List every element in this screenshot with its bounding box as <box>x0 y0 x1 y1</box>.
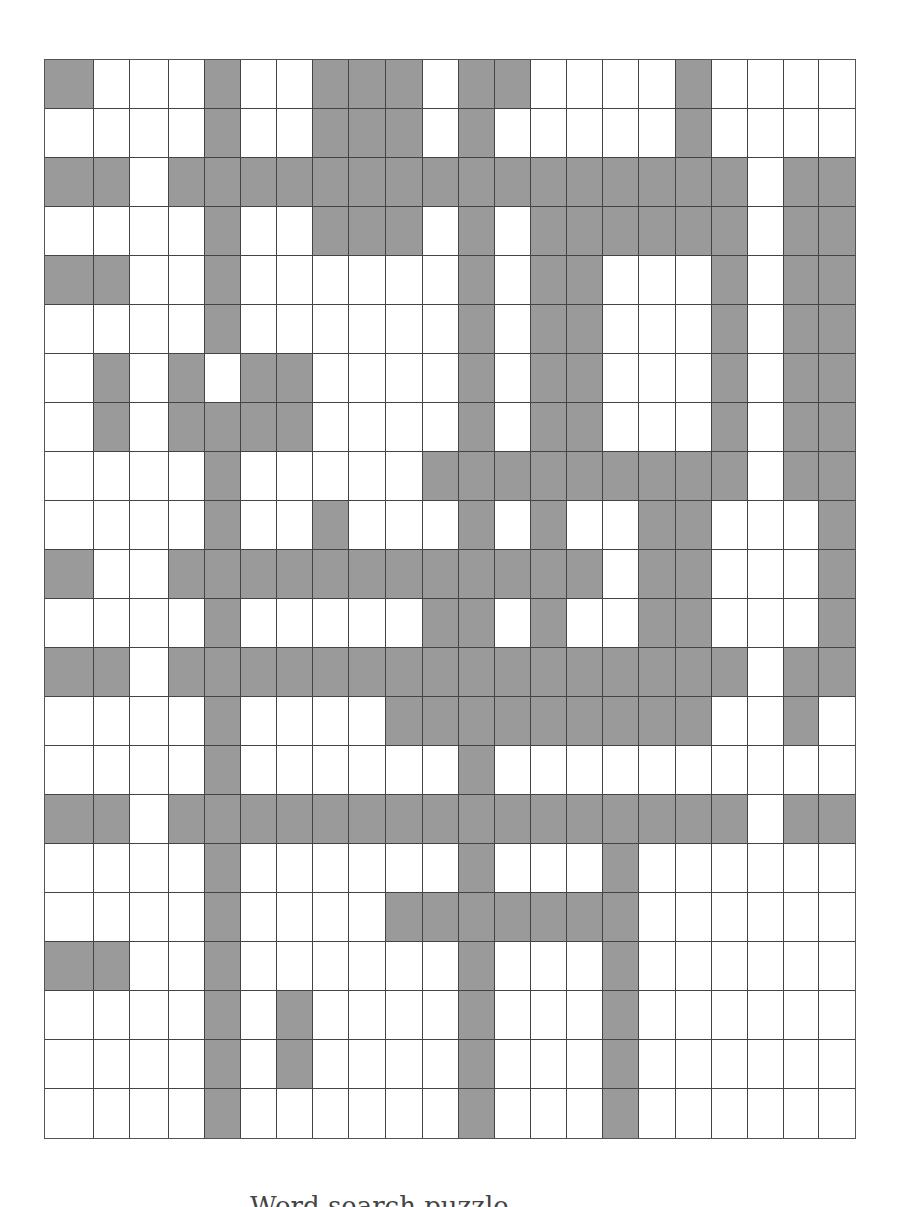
grid-cell-shaded <box>459 697 495 746</box>
grid-cell-empty <box>676 1089 712 1138</box>
grid-cell-empty <box>169 207 205 256</box>
grid-cell-empty <box>639 746 676 795</box>
grid-cell-empty <box>277 599 313 648</box>
grid-cell-empty <box>748 697 784 746</box>
grid-cell-empty <box>639 1040 676 1089</box>
grid-cell-empty <box>241 305 277 354</box>
grid-cell-empty <box>531 1040 567 1089</box>
grid-cell-empty <box>130 256 169 305</box>
grid-cell-empty <box>603 305 639 354</box>
grid-cell-shaded <box>819 599 855 648</box>
grid-cell-shaded <box>603 991 639 1040</box>
grid-cell-shaded <box>567 354 603 403</box>
grid-cell-empty <box>386 991 423 1040</box>
grid-cell-empty <box>748 207 784 256</box>
grid-cell-shaded <box>784 305 819 354</box>
grid-cell-empty <box>349 256 386 305</box>
grid-cell-empty <box>386 1040 423 1089</box>
grid-cell-empty <box>94 207 130 256</box>
grid-cell-shaded <box>603 893 639 942</box>
grid-cell-empty <box>94 991 130 1040</box>
grid-cell-empty <box>130 1089 169 1138</box>
grid-cell-empty <box>784 1040 819 1089</box>
grid-cell-empty <box>45 403 94 452</box>
grid-cell-shaded <box>819 648 855 697</box>
grid-cell-shaded <box>676 648 712 697</box>
grid-cell-empty <box>169 844 205 893</box>
grid-cell-empty <box>130 648 169 697</box>
grid-cell-empty <box>130 1040 169 1089</box>
grid-cell-shaded <box>567 207 603 256</box>
grid-cell-empty <box>784 599 819 648</box>
grid-cell-empty <box>94 550 130 599</box>
grid-cell-shaded <box>531 893 567 942</box>
grid-cell-shaded <box>459 844 495 893</box>
grid-cell-shaded <box>205 795 241 844</box>
grid-cell-empty <box>639 991 676 1040</box>
grid-cell-empty <box>277 452 313 501</box>
grid-cell-empty <box>748 746 784 795</box>
grid-cell-shaded <box>205 893 241 942</box>
grid-cell-shaded <box>531 305 567 354</box>
grid-cell-empty <box>349 1089 386 1138</box>
grid-cell-empty <box>313 354 349 403</box>
grid-cell-shaded <box>205 60 241 109</box>
grid-cell-empty <box>712 893 748 942</box>
grid-cell-shaded <box>603 697 639 746</box>
grid-cell-shaded <box>676 158 712 207</box>
grid-cell-empty <box>495 599 531 648</box>
grid-cell-shaded <box>205 550 241 599</box>
grid-cell-empty <box>277 697 313 746</box>
grid-cell-empty <box>45 599 94 648</box>
grid-cell-empty <box>748 893 784 942</box>
grid-cell-empty <box>748 648 784 697</box>
grid-cell-shaded <box>277 1040 313 1089</box>
grid-cell-shaded <box>639 207 676 256</box>
grid-cell-empty <box>94 1089 130 1138</box>
grid-cell-shaded <box>531 648 567 697</box>
grid-cell-empty <box>45 354 94 403</box>
grid-cell-empty <box>241 746 277 795</box>
grid-cell-empty <box>495 501 531 550</box>
grid-cell-shaded <box>531 452 567 501</box>
grid-cell-empty <box>639 403 676 452</box>
grid-cell-shaded <box>423 550 459 599</box>
grid-cell-empty <box>567 501 603 550</box>
grid-cell-shaded <box>676 501 712 550</box>
grid-cell-empty <box>277 893 313 942</box>
grid-cell-shaded <box>603 648 639 697</box>
grid-cell-empty <box>45 109 94 158</box>
grid-cell-empty <box>639 109 676 158</box>
grid-cell-shaded <box>676 795 712 844</box>
grid-cell-empty <box>94 697 130 746</box>
grid-cell-empty <box>130 354 169 403</box>
grid-cell-empty <box>748 452 784 501</box>
grid-cell-shaded <box>712 256 748 305</box>
grid-cell-empty <box>784 1089 819 1138</box>
grid-cell-shaded <box>459 109 495 158</box>
grid-cell-shaded <box>567 550 603 599</box>
grid-cell-empty <box>277 746 313 795</box>
grid-cell-shaded <box>423 452 459 501</box>
grid-cell-shaded <box>277 991 313 1040</box>
grid-cell-shaded <box>205 256 241 305</box>
grid-cell-empty <box>819 991 855 1040</box>
grid-cell-empty <box>94 599 130 648</box>
grid-cell-empty <box>386 256 423 305</box>
grid-cell-empty <box>748 256 784 305</box>
grid-cell-shaded <box>784 697 819 746</box>
grid-cell-shaded <box>349 60 386 109</box>
grid-cell-empty <box>819 1040 855 1089</box>
grid-cell-empty <box>639 942 676 991</box>
grid-cell-empty <box>495 354 531 403</box>
grid-cell-empty <box>567 991 603 1040</box>
grid-cell-empty <box>386 1089 423 1138</box>
grid-cell-shaded <box>94 403 130 452</box>
grid-cell-empty <box>130 60 169 109</box>
grid-cell-shaded <box>205 305 241 354</box>
grid-cell-shaded <box>386 109 423 158</box>
grid-cell-shaded <box>712 452 748 501</box>
grid-cell-shaded <box>205 1040 241 1089</box>
grid-cell-shaded <box>459 893 495 942</box>
grid-cell-shaded <box>819 550 855 599</box>
